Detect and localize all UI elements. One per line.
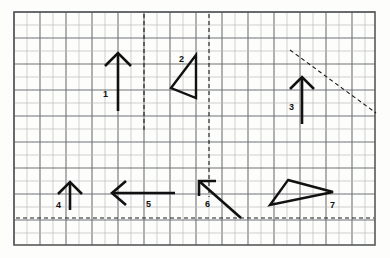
triangle-2-label: 2 bbox=[179, 54, 184, 64]
arrow-4-label: 4 bbox=[56, 200, 61, 210]
arrow-5-label: 5 bbox=[146, 199, 151, 209]
vector-diagram-figure: 1234567 bbox=[0, 0, 390, 258]
arrow-6-label: 6 bbox=[205, 199, 210, 209]
arrow-1-label: 1 bbox=[103, 89, 108, 99]
triangle-7-label: 7 bbox=[330, 200, 335, 210]
diagram-canvas: 1234567 bbox=[0, 0, 390, 258]
arrow-3-label: 3 bbox=[289, 102, 294, 112]
